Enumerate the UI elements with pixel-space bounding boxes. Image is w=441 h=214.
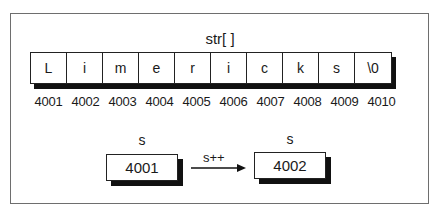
pointer-before-label: s (132, 132, 152, 148)
pointer-after-value: 4002 (273, 157, 306, 174)
address-label: 4004 (141, 94, 178, 109)
array-cell: e (139, 53, 175, 83)
pointer-before-value: 4001 (125, 159, 158, 176)
address-label: 4001 (30, 94, 67, 109)
array-title: str[ ] (185, 30, 255, 47)
address-label: 4006 (215, 94, 252, 109)
pointer-after-label: s (280, 131, 300, 147)
address-label: 4007 (252, 94, 289, 109)
pointer-before-box: 4001 (106, 154, 178, 181)
array-cell-null-terminator: \0 (355, 53, 392, 83)
address-row: 4001 4002 4003 4004 4005 4006 4007 4008 … (30, 94, 400, 109)
arrow-right-icon (190, 162, 248, 174)
array-cell: L (31, 53, 67, 83)
address-label: 4005 (178, 94, 215, 109)
array-cell: r (175, 53, 211, 83)
address-label: 4008 (289, 94, 326, 109)
address-label: 4003 (104, 94, 141, 109)
array-cell: i (211, 53, 247, 83)
address-label: 4002 (67, 94, 104, 109)
pointer-after-box: 4002 (254, 152, 326, 179)
char-array: L i m e r i c k s \0 (30, 52, 392, 84)
array-cell: k (283, 53, 319, 83)
array-cell: c (247, 53, 283, 83)
address-label: 4010 (363, 94, 400, 109)
array-cell: s (319, 53, 355, 83)
array-cell: m (103, 53, 139, 83)
address-label: 4009 (326, 94, 363, 109)
array-cell: i (67, 53, 103, 83)
